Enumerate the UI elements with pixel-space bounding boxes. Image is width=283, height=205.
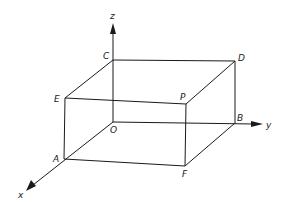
axis-label-z: z (109, 11, 115, 21)
vertex-label-P: P (180, 92, 186, 102)
z-arrow-icon (110, 23, 116, 34)
edge-C-D (113, 60, 235, 61)
edge-P-F (185, 104, 186, 166)
axis-label-y: y (265, 120, 272, 130)
box-diagram: z y x C D E P O B A F (0, 0, 283, 205)
edge-A-F (64, 159, 185, 166)
x-arrow-icon (26, 180, 36, 191)
y-arrow-icon (251, 121, 263, 127)
edge-E-A (64, 98, 65, 159)
vertex-label-C: C (103, 51, 110, 61)
edge-P-D (186, 61, 235, 104)
z-axis (110, 23, 116, 122)
vertex-label-A: A (52, 154, 59, 164)
vertex-label-B: B (237, 113, 243, 123)
axis-label-x: x (17, 190, 24, 200)
edge-E-P (65, 98, 186, 104)
vertex-label-E: E (54, 94, 60, 104)
vertex-label-O: O (110, 125, 117, 135)
edge-F-B (185, 123, 235, 166)
box-edges (64, 60, 235, 166)
vertex-label-F: F (182, 169, 188, 179)
x-axis (26, 122, 113, 191)
edge-C-E (65, 60, 113, 98)
vertex-label-D: D (238, 53, 245, 63)
